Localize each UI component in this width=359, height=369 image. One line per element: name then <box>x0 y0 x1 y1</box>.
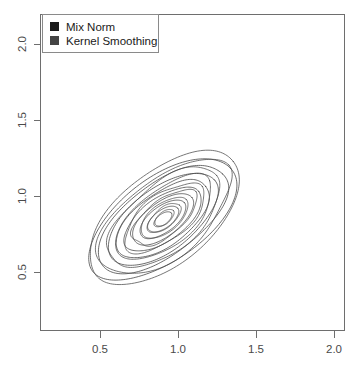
x-tick-label: 1.5 <box>248 343 264 355</box>
y-tick-label: 2.0 <box>16 36 28 52</box>
contour-line <box>154 212 172 227</box>
legend-label-kernel-smoothing: Kernel Smoothing <box>66 35 157 47</box>
contour-line <box>90 150 239 284</box>
contour-plot-canvas: 0.5 1.0 1.5 2.0 0.5 1.0 1.5 2.0 <box>0 0 359 369</box>
x-tick-label: 0.5 <box>92 343 108 355</box>
y-axis-tick-labels: 0.5 1.0 1.5 2.0 <box>16 36 28 280</box>
contour-lines-group <box>89 150 240 284</box>
plot-frame <box>41 15 345 331</box>
y-axis-ticks <box>34 45 41 273</box>
contour-line <box>140 200 186 239</box>
x-tick-label: 1.0 <box>170 343 186 355</box>
x-axis-ticks <box>101 331 335 338</box>
legend: Mix Norm Kernel Smoothing <box>43 15 159 53</box>
legend-label-mix-norm: Mix Norm <box>66 21 115 33</box>
legend-swatch-mix-norm <box>50 22 59 31</box>
contour-line <box>98 165 228 273</box>
legend-swatch-kernel-smoothing <box>50 36 59 45</box>
y-tick-label: 0.5 <box>16 264 28 280</box>
y-tick-label: 1.5 <box>16 112 28 128</box>
x-axis-tick-labels: 0.5 1.0 1.5 2.0 <box>92 343 342 355</box>
x-tick-label: 2.0 <box>326 343 342 355</box>
contour-line <box>106 167 219 268</box>
y-tick-label: 1.0 <box>16 188 28 204</box>
contour-plot-figure: 0.5 1.0 1.5 2.0 0.5 1.0 1.5 2.0 <box>0 0 359 369</box>
